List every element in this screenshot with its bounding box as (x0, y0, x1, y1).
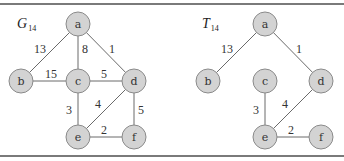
edge-weight-e-f: 2 (288, 123, 294, 137)
node-a: a (253, 12, 277, 36)
edge-weight-c-d: 5 (101, 67, 107, 81)
node-label: e (75, 131, 82, 144)
node-a: a (66, 12, 90, 36)
edge-weight-a-b: 13 (221, 42, 233, 56)
graph-title: T14 (202, 16, 219, 33)
node-label: b (17, 75, 24, 88)
graphs-layer: G1413811553452abcdefT14131342abcdef (9, 12, 333, 149)
node-label: d (130, 75, 137, 88)
edge-weight-c-e: 3 (253, 103, 259, 117)
edge-weight-c-e: 3 (66, 103, 72, 117)
node-d: d (122, 69, 146, 93)
node-label: b (204, 75, 211, 88)
node-label: c (262, 75, 268, 88)
edge-weight-d-f: 5 (138, 103, 144, 117)
node-c: c (66, 69, 90, 93)
edge-weight-b-c: 15 (45, 67, 57, 81)
node-label: a (75, 18, 82, 31)
edge-weight-d-e: 4 (95, 97, 101, 111)
graph-g14: G1413811553452abcdef (9, 12, 146, 149)
node-b: b (196, 69, 220, 93)
node-e: e (253, 125, 277, 149)
node-d: d (309, 69, 333, 93)
node-f: f (122, 125, 146, 149)
edge-weight-d-e: 4 (282, 97, 288, 111)
node-c: c (253, 69, 277, 93)
node-label: a (262, 18, 269, 31)
graph-figure: G1413811553452abcdefT14131342abcdef (0, 0, 344, 161)
edge-weight-a-d: 1 (296, 42, 302, 56)
node-label: c (75, 75, 81, 88)
node-f: f (309, 125, 333, 149)
edge-weight-a-c: 8 (82, 42, 88, 56)
graph-title: G14 (17, 16, 36, 33)
node-e: e (66, 125, 90, 149)
edge-weight-e-f: 2 (101, 123, 107, 137)
edge-weight-a-b: 13 (34, 42, 46, 56)
graph-t14: T14131342abcdef (196, 12, 333, 149)
edge-weight-a-d: 1 (109, 42, 115, 56)
node-label: d (317, 75, 324, 88)
node-label: e (262, 131, 269, 144)
node-b: b (9, 69, 33, 93)
